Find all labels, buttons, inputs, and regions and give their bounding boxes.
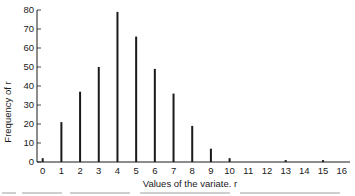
x-tick-label: 4 xyxy=(115,165,120,176)
x-tick-label: 11 xyxy=(243,165,253,176)
x-tick-label: 15 xyxy=(318,165,329,176)
x-tick-label: 7 xyxy=(171,165,176,176)
x-tick-label: 12 xyxy=(262,165,273,176)
y-tick-label: 70 xyxy=(23,23,34,34)
bars xyxy=(42,12,324,162)
x-tick-label: 3 xyxy=(96,165,101,176)
x-tick-label: 16 xyxy=(336,165,347,176)
y-tick-label: 30 xyxy=(23,99,34,110)
y-axis-title: Frequency of r xyxy=(2,81,13,142)
frequency-bar xyxy=(42,158,44,162)
frequency-bar xyxy=(191,126,193,162)
y-tick-label: 50 xyxy=(23,61,34,72)
frequency-bar xyxy=(79,92,81,162)
x-tick-label: 13 xyxy=(280,165,291,176)
frequency-spike-chart: 01020304050607080 0123456789101112131415… xyxy=(0,0,355,196)
frequency-bar xyxy=(322,160,324,162)
x-tick-label: 14 xyxy=(299,165,310,176)
frequency-bar xyxy=(154,69,156,162)
y-axis: 01020304050607080 xyxy=(23,4,41,167)
figure-caption-cutoff xyxy=(0,190,355,196)
frequency-bar xyxy=(173,94,175,162)
x-tick-label: 10 xyxy=(224,165,235,176)
y-tick-label: 60 xyxy=(23,42,34,53)
y-tick-label: 0 xyxy=(29,156,34,167)
frequency-bar xyxy=(229,158,231,162)
x-axis: 012345678910111213141516 xyxy=(37,162,350,176)
y-tick-label: 10 xyxy=(23,137,34,148)
frequency-bar xyxy=(116,12,118,162)
x-tick-label: 0 xyxy=(40,165,45,176)
frequency-bar xyxy=(60,122,62,162)
x-tick-label: 9 xyxy=(208,165,213,176)
frequency-bar xyxy=(285,160,287,162)
y-tick-label: 80 xyxy=(23,4,34,15)
y-tick-label: 20 xyxy=(23,118,34,129)
y-tick-label: 40 xyxy=(23,80,34,91)
x-tick-label: 6 xyxy=(152,165,157,176)
frequency-bar xyxy=(210,149,212,162)
x-tick-label: 5 xyxy=(134,165,139,176)
x-tick-label: 2 xyxy=(77,165,82,176)
x-axis-title: Values of the variate. r xyxy=(143,178,237,189)
frequency-bar xyxy=(98,67,100,162)
x-tick-label: 1 xyxy=(59,165,64,176)
frequency-bar xyxy=(135,37,137,162)
x-tick-label: 8 xyxy=(190,165,195,176)
